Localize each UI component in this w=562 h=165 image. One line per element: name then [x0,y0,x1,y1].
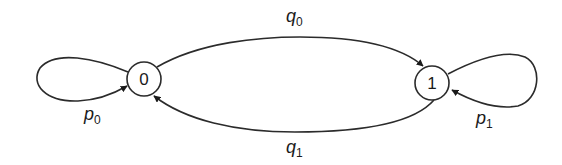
edge-1-to-0 [154,96,434,132]
node-0-label: 0 [139,70,148,89]
state-diagram: 0 1 p0 q0 q1 p1 [0,0,562,165]
edge-label-p1: p1 [475,108,493,131]
edge-label-p0: p0 [83,104,101,127]
edge-loop-0 [37,58,128,101]
node-1: 1 [415,66,449,100]
edge-loop-1 [448,54,537,107]
edge-label-q0: q0 [286,6,303,29]
node-1-label: 1 [427,74,436,93]
edge-0-to-1 [157,37,423,67]
node-0: 0 [127,62,161,96]
edge-label-q1: q1 [286,137,303,160]
